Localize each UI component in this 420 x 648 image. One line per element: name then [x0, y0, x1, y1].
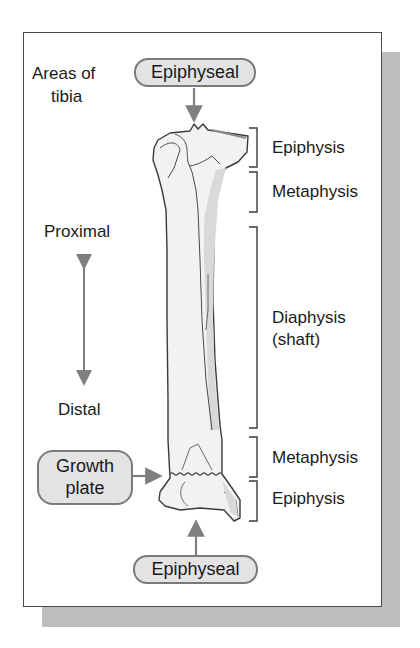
region-label-diaphysis-line2: (shaft) [272, 330, 320, 350]
bottom-epiphyseal-callout: Epiphyseal [133, 555, 258, 584]
bracket-metaphysis-bottom [249, 437, 257, 477]
growth-plate-callout: Growth plate [37, 450, 133, 505]
region-brackets [249, 128, 257, 521]
region-label-metaphysis-top: Metaphysis [272, 182, 358, 202]
bracket-epiphysis-top [249, 128, 257, 167]
bracket-metaphysis-top [249, 172, 257, 212]
region-label-metaphysis-bottom: Metaphysis [272, 448, 358, 468]
top-epiphyseal-callout: Epiphyseal [134, 58, 256, 87]
region-label-epiphysis-bottom: Epiphysis [272, 489, 345, 509]
region-label-epiphysis-top: Epiphysis [272, 138, 345, 158]
tibia-bone [153, 124, 248, 521]
growth-plate-label-line2: plate [39, 477, 131, 499]
bracket-diaphysis [249, 227, 257, 428]
diagram-title-line1: Areas of [32, 64, 95, 84]
bracket-epiphysis-bottom [249, 481, 257, 521]
diagram-title-line2: tibia [51, 87, 82, 107]
region-label-diaphysis-line1: Diaphysis [272, 308, 346, 328]
distal-label: Distal [58, 400, 101, 420]
growth-plate-label-line1: Growth [39, 455, 131, 477]
proximal-label: Proximal [44, 222, 110, 242]
